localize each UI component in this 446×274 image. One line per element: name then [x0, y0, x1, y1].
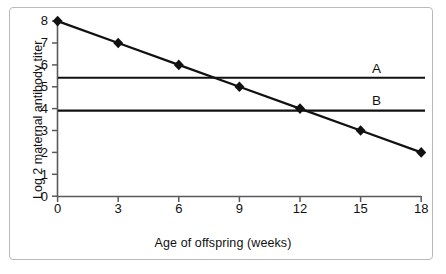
chart-canvas	[0, 0, 446, 274]
y-axis-title-wrapper: Log 2 maternal antibody titer	[31, 199, 189, 213]
series-markers	[53, 16, 427, 158]
reference-label-a: A	[372, 61, 381, 76]
x-tick-label-9: 9	[227, 201, 251, 216]
figure-container: 8 7 6 5 4 3 2 1 0 0 3 6 9 12 15 18 A B A…	[0, 0, 446, 274]
reference-label-b: B	[372, 93, 381, 108]
y-tick-label-8: 8	[32, 13, 48, 28]
x-axis-title: Age of offspring (weeks)	[0, 236, 446, 250]
y-axis-title: Log 2 maternal antibody titer	[31, 41, 45, 199]
x-tick-label-18: 18	[409, 201, 433, 216]
x-tick-label-15: 15	[349, 201, 373, 216]
x-tick-label-12: 12	[288, 201, 312, 216]
y-tick-marks	[52, 21, 57, 196]
